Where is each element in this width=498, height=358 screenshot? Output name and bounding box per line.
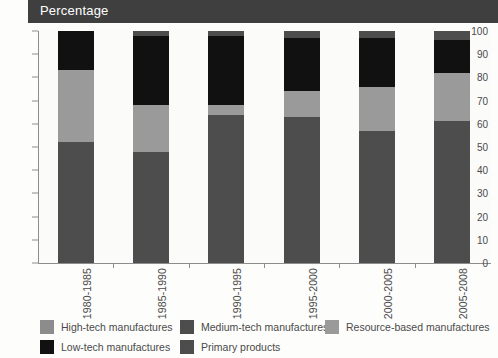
x-axis-label: 1980-1985 (81, 268, 93, 319)
legend-item[interactable]: High-tech manufactures (40, 320, 172, 334)
y-axis-tick-mark (32, 263, 38, 264)
x-axis-label: 2000-2005 (382, 268, 394, 319)
bar-segment (133, 36, 169, 106)
chart-plot-wrapper: 0102030405060708090100 1980-19851985-199… (0, 0, 498, 316)
bar-segment (359, 87, 395, 131)
bar-segment (359, 31, 395, 38)
bar-segment (208, 105, 244, 114)
x-axis-tick-mark (415, 263, 416, 268)
bar-2005-2008 (434, 31, 470, 263)
legend-item[interactable]: Low-tech manufactures (40, 340, 170, 354)
y-axis-tick-label: 0 (482, 258, 488, 269)
y-axis-tick-mark (32, 239, 38, 240)
bar-2000-2005 (359, 31, 395, 263)
legend-label: Resource-based manufactures (346, 321, 490, 333)
y-axis-tick-mark (32, 54, 38, 55)
y-axis-tick-mark (32, 77, 38, 78)
bar-segment (208, 115, 244, 263)
legend-item[interactable]: Primary products (180, 340, 280, 354)
bar-segment (58, 142, 94, 263)
legend-label: Medium-tech manufactures (201, 321, 328, 333)
legend-swatch-icon (325, 320, 339, 334)
y-axis-tick-label: 80 (477, 72, 488, 83)
y-axis-tick-mark (32, 170, 38, 171)
y-axis-tick-mark (32, 193, 38, 194)
x-axis-tick-mark (189, 263, 190, 268)
bar-segment (284, 117, 320, 263)
x-axis-tick-mark (113, 263, 114, 268)
legend-label: Primary products (201, 341, 280, 353)
x-axis-label: 1985-1990 (156, 268, 168, 319)
bar-segment (284, 31, 320, 38)
legend-swatch-icon (40, 320, 54, 334)
legend-label: Low-tech manufactures (61, 341, 170, 353)
bar-segment (434, 40, 470, 72)
bar-segment (284, 38, 320, 91)
bar-segment (58, 31, 94, 70)
y-axis-tick-mark (32, 100, 38, 101)
bar-1995-2000 (284, 31, 320, 263)
y-axis-tick-label: 100 (471, 26, 488, 37)
bar-segment (359, 38, 395, 87)
y-axis-tick-mark (32, 123, 38, 124)
x-axis-tick-mark (339, 263, 340, 268)
chart-legend: High-tech manufacturesMedium-tech manufa… (0, 318, 498, 358)
y-axis-tick-label: 70 (477, 95, 488, 106)
y-axis-tick-mark (32, 147, 38, 148)
y-axis-tick-label: 30 (477, 188, 488, 199)
bar-1980-1985 (58, 31, 94, 263)
y-axis-tick-label: 90 (477, 49, 488, 60)
bar-1985-1990 (133, 31, 169, 263)
plot-area (38, 31, 491, 264)
legend-swatch-icon (40, 340, 54, 354)
bar-1990-1995 (208, 31, 244, 263)
y-axis-tick-mark (32, 31, 38, 32)
bar-segment (58, 70, 94, 142)
y-axis-tick-label: 60 (477, 118, 488, 129)
x-axis-tick-mark (264, 263, 265, 268)
bar-segment (133, 105, 169, 151)
bar-segment (434, 121, 470, 263)
y-axis-tick-label: 20 (477, 211, 488, 222)
bar-segment (359, 131, 395, 263)
legend-swatch-icon (180, 340, 194, 354)
x-axis-label: 1995-2000 (307, 268, 319, 319)
y-axis-tick-label: 50 (477, 142, 488, 153)
bar-segment (434, 31, 470, 40)
legend-swatch-icon (180, 320, 194, 334)
y-axis-tick-label: 10 (477, 234, 488, 245)
x-axis-label: 2005-2008 (457, 268, 469, 319)
legend-item[interactable]: Medium-tech manufactures (180, 320, 328, 334)
y-axis-tick-label: 40 (477, 165, 488, 176)
legend-item[interactable]: Resource-based manufactures (325, 320, 490, 334)
y-axis-tick-mark (32, 216, 38, 217)
x-axis-label: 1990-1995 (231, 268, 243, 319)
bar-segment (133, 152, 169, 263)
bar-segment (284, 91, 320, 117)
bar-segment (208, 36, 244, 106)
legend-label: High-tech manufactures (61, 321, 172, 333)
bar-segment (434, 73, 470, 122)
